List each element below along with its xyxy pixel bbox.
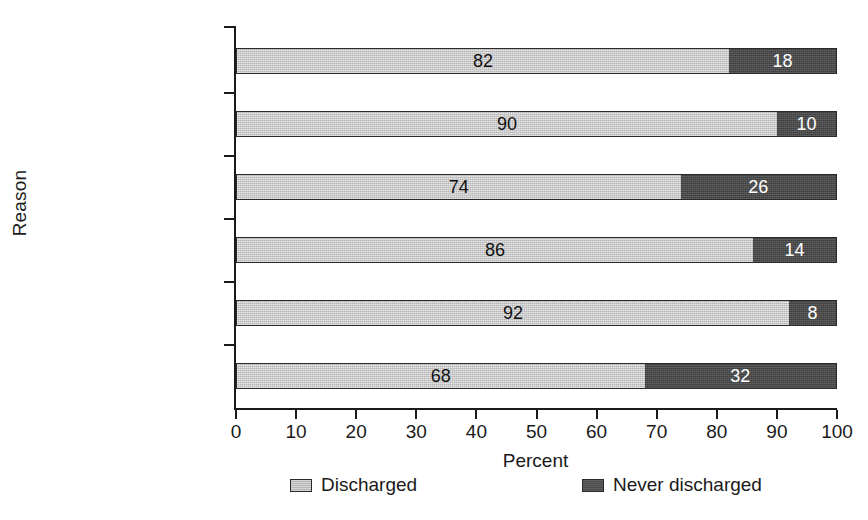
stacked-bar[interactable]: 7426 xyxy=(236,174,837,200)
x-axis-tick xyxy=(415,410,417,419)
x-axis-tick-label: 90 xyxy=(747,421,807,443)
x-axis-tick xyxy=(295,410,297,419)
legend-label-never-discharged: Never discharged xyxy=(613,474,762,496)
x-axis-title: Percent xyxy=(234,450,837,472)
legend-swatch-icon-never-discharged xyxy=(582,479,604,492)
stacked-bar[interactable]: 8218 xyxy=(236,48,837,74)
x-axis-tick xyxy=(716,410,718,419)
bar-segment-never-discharged[interactable]: 18 xyxy=(729,48,837,74)
y-axis-minor-tick xyxy=(224,218,236,220)
y-axis-title: Reason xyxy=(9,155,31,251)
stacked-bar[interactable]: 6832 xyxy=(236,363,837,389)
x-axis-tick xyxy=(656,410,658,419)
x-axis-tick-label: 0 xyxy=(206,421,266,443)
stacked-bar-chart: Reason Total8218Uncategorized9010Volunta… xyxy=(0,0,868,520)
x-axis-tick xyxy=(776,410,778,419)
bar-segment-discharged[interactable]: 90 xyxy=(236,111,777,137)
legend-item-never-discharged: Never discharged xyxy=(582,474,762,496)
bar-segment-discharged[interactable]: 68 xyxy=(236,363,645,389)
bar-segment-never-discharged[interactable]: 14 xyxy=(753,237,837,263)
x-axis-tick-label: 70 xyxy=(627,421,687,443)
bar-segment-never-discharged[interactable]: 32 xyxy=(645,363,837,389)
stacked-bar[interactable]: 928 xyxy=(236,300,837,326)
x-axis-tick xyxy=(475,410,477,419)
x-axis-tick-label: 80 xyxy=(687,421,747,443)
x-axis-tick-label: 100 xyxy=(807,421,867,443)
stacked-bar[interactable]: 9010 xyxy=(236,111,837,137)
bar-segment-discharged[interactable]: 92 xyxy=(236,300,789,326)
bar-segment-never-discharged[interactable]: 10 xyxy=(777,111,837,137)
bar-segment-never-discharged[interactable]: 8 xyxy=(789,300,837,326)
x-axis-tick-label: 40 xyxy=(446,421,506,443)
y-axis-minor-tick xyxy=(224,344,236,346)
y-axis-minor-tick xyxy=(224,92,236,94)
bar-segment-discharged[interactable]: 82 xyxy=(236,48,729,74)
bar-segment-never-discharged[interactable]: 26 xyxy=(681,174,837,200)
x-axis-tick-label: 30 xyxy=(386,421,446,443)
y-axis-top-tick xyxy=(224,26,236,28)
legend-label-discharged: Discharged xyxy=(321,474,417,496)
x-axis-tick-label: 10 xyxy=(266,421,326,443)
x-axis-tick xyxy=(836,410,838,419)
y-axis-minor-tick xyxy=(224,155,236,157)
bar-segment-discharged[interactable]: 86 xyxy=(236,237,753,263)
y-axis-minor-tick xyxy=(224,281,236,283)
chart-legend: Discharged Never discharged xyxy=(234,474,837,500)
x-axis-tick-label: 50 xyxy=(507,421,567,443)
x-axis-tick xyxy=(536,410,538,419)
x-axis-tick xyxy=(235,410,237,419)
stacked-bar[interactable]: 8614 xyxy=(236,237,837,263)
legend-item-discharged: Discharged xyxy=(290,474,417,496)
legend-swatch-icon-discharged xyxy=(290,479,312,492)
x-axis-tick-label: 20 xyxy=(326,421,386,443)
bar-segment-discharged[interactable]: 74 xyxy=(236,174,681,200)
x-axis-tick xyxy=(596,410,598,419)
x-axis-tick xyxy=(355,410,357,419)
x-axis-tick-label: 60 xyxy=(567,421,627,443)
